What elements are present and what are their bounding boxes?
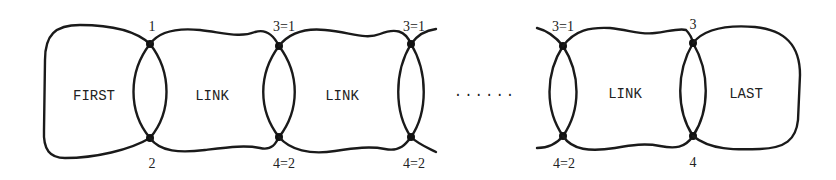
- junction-5-bottom-label: 4: [690, 155, 697, 170]
- junction-5-top-label: 3: [690, 17, 697, 32]
- block-link-3-label: LINK: [608, 86, 642, 102]
- junction-4-bottom-tail: [537, 136, 563, 148]
- junction-3-bottom-label: 4=2: [403, 156, 425, 171]
- block-link-2-label: LINK: [325, 88, 359, 104]
- junction-4: 3=1 4=2: [537, 19, 577, 171]
- junction-5: 3 4: [680, 17, 706, 170]
- junction-3-top-label: 3=1: [403, 19, 425, 34]
- junction-4-top-label: 3=1: [552, 19, 574, 34]
- block-link-1-label: LINK: [195, 88, 229, 104]
- junction-1-top-label: 1: [149, 19, 156, 34]
- junction-3-right-arc: [411, 44, 424, 137]
- block-link-1-bottom: [150, 137, 279, 151]
- junction-1-bottom-label: 2: [149, 156, 156, 171]
- junction-2-left-arc: [263, 46, 279, 137]
- junction-3: 3=1 4=2: [398, 19, 436, 171]
- link-chain-diagram: FIRST 1 2 LINK 3=1 4=2 LINK 3=1: [0, 0, 836, 180]
- node-top: [407, 40, 415, 48]
- junction-3-left-arc: [398, 44, 411, 137]
- junction-4-left-arc: [550, 46, 564, 136]
- junction-4-right-arc: [563, 46, 577, 136]
- block-link-1: LINK: [150, 29, 279, 151]
- block-link-2: LINK: [279, 30, 411, 153]
- block-link-2-top: [279, 30, 411, 46]
- ellipsis: ......: [454, 84, 516, 100]
- block-link-1-top: [150, 29, 279, 46]
- node-bottom: [407, 133, 415, 141]
- block-link-3-bottom: [563, 136, 693, 150]
- block-last: LAST: [693, 26, 800, 149]
- junction-5-left-arc: [680, 43, 693, 136]
- block-link-3: LINK: [563, 28, 693, 150]
- block-last-label: LAST: [729, 86, 763, 102]
- junction-1-right-arc: [150, 44, 167, 138]
- junction-1-left-arc: [134, 44, 151, 138]
- block-link-3-top: [563, 28, 693, 46]
- junction-2-top-label: 3=1: [273, 19, 295, 34]
- junction-5-right-arc: [693, 43, 706, 136]
- junction-4-bottom-label: 4=2: [553, 156, 575, 171]
- block-first-label: FIRST: [73, 88, 115, 104]
- junction-3-bottom-tail: [411, 137, 436, 152]
- block-link-2-bottom: [279, 137, 411, 152]
- junction-2-right-arc: [279, 46, 295, 137]
- junction-2-bottom-label: 4=2: [273, 156, 295, 171]
